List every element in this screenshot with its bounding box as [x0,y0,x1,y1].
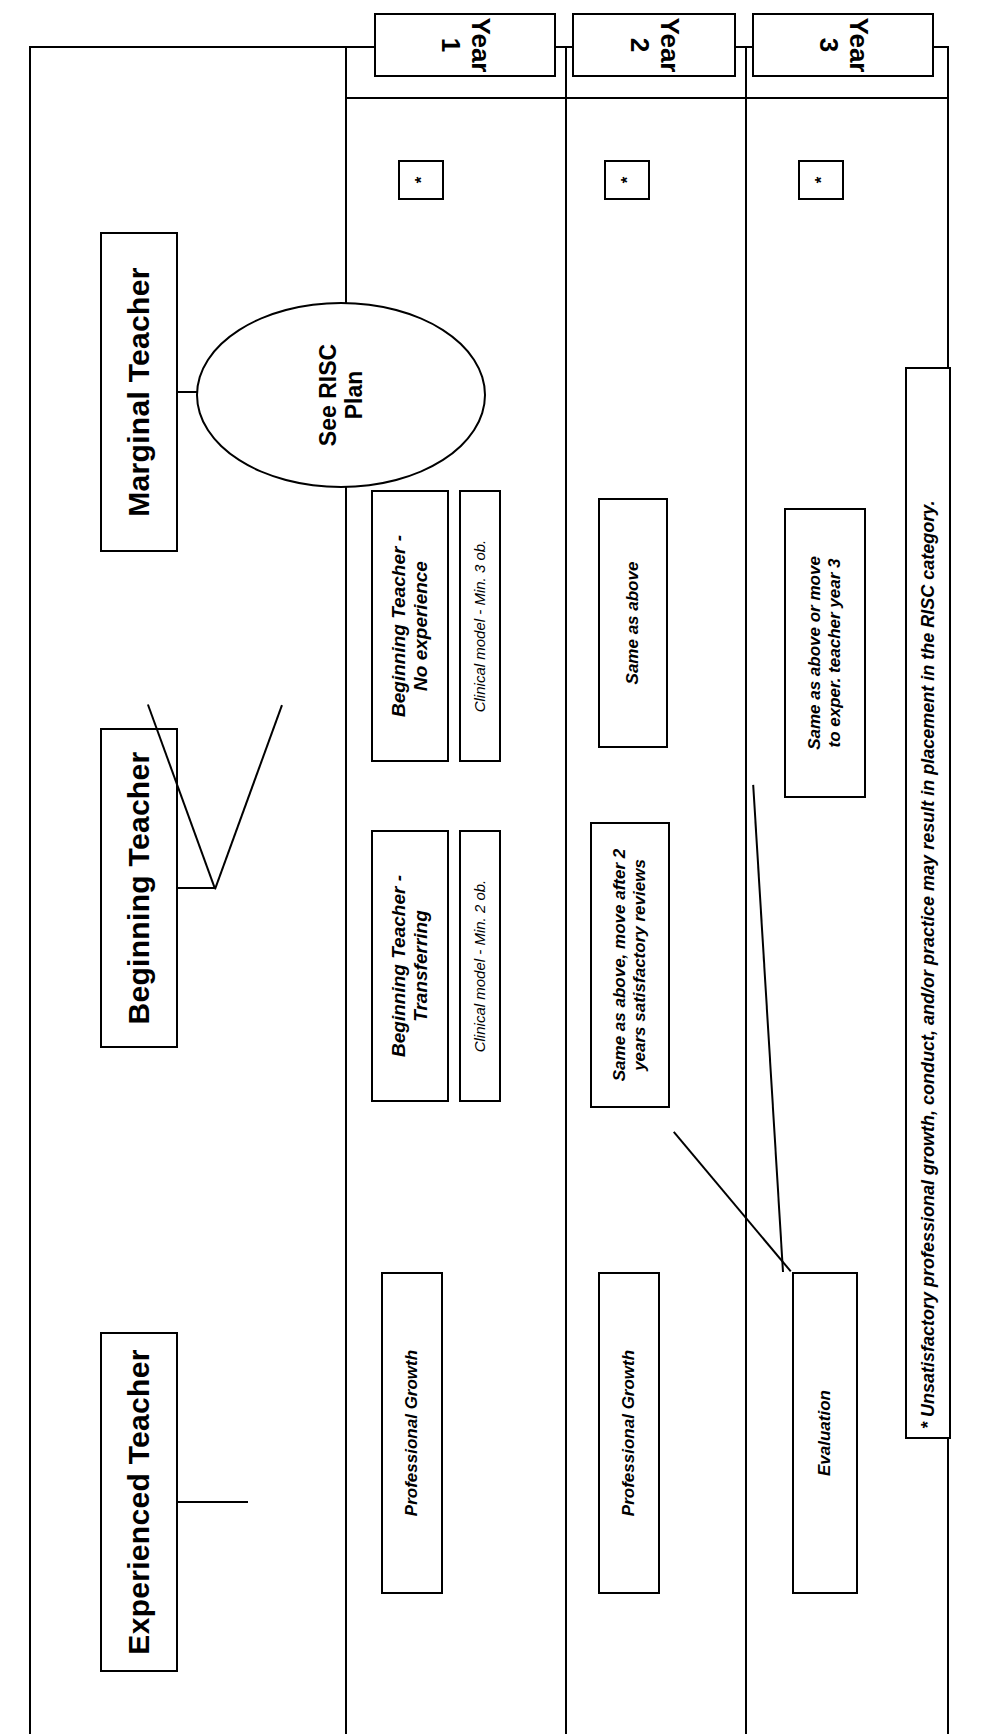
node-beginning-year2-transferring: Same as above, move after 2 years satisf… [590,822,670,1108]
footnote-risc-note: * Unsatisfactory professional growth, co… [905,367,951,1439]
asterisk-marker-year3: * [798,160,844,200]
year-gutter-rule [345,97,949,99]
asterisk-marker-year2: * [604,160,650,200]
node-beginning-transferring-detail: Clinical model - Min. 2 ob. [459,830,501,1102]
row-label-year1: Year 1 [374,13,556,77]
node-experienced-year3-evaluation: Evaluation [792,1272,858,1594]
column-header-marginal: Marginal Teacher [100,232,178,552]
column-header-experienced: Experienced Teacher [100,1332,178,1672]
node-experienced-year2-professional-growth: Professional Growth [598,1272,660,1594]
node-experienced-year1-professional-growth: Professional Growth [381,1272,443,1594]
column-header-beginning: Beginning Teacher [100,728,178,1048]
row-label-year3: Year 3 [752,13,934,77]
row-label-year2: Year 2 [572,13,736,77]
node-beginning-year3: Same as above or move to exper. teacher … [784,508,866,798]
node-beginning-no-experience: Beginning Teacher - No experience [371,490,449,762]
node-beginning-year2-no-experience: Same as above [598,498,668,748]
row-divider-year2-year3 [745,46,747,1734]
node-see-risc-plan: See RISC Plan [196,302,486,488]
connector-beginning-stub [178,887,214,889]
node-beginning-no-experience-detail: Clinical model - Min. 3 ob. [459,490,501,762]
node-beginning-transferring: Beginning Teacher - Transferring [371,830,449,1102]
row-divider-header-year1 [345,46,347,1734]
row-divider-year1-year2 [565,46,567,1734]
asterisk-marker-year1: * [398,160,444,200]
flowchart-canvas: Experienced Teacher Beginning Teacher Ma… [0,0,981,1734]
connector-experienced-stub [178,1501,248,1503]
rotated-page-stage: Experienced Teacher Beginning Teacher Ma… [0,0,981,1734]
